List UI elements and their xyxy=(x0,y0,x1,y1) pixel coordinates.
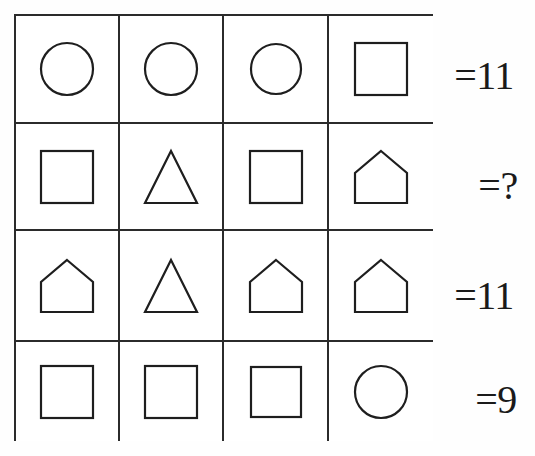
circle-icon xyxy=(249,42,303,96)
house-icon xyxy=(248,258,304,314)
grid-cell-r1c1[interactable] xyxy=(16,16,120,124)
row-total-2: =? xyxy=(433,166,535,206)
grid-cell-r3c2[interactable] xyxy=(120,231,224,342)
triangle-icon xyxy=(143,258,199,314)
row-total-4: =9 xyxy=(433,380,535,420)
square-icon xyxy=(249,365,303,419)
grid-cell-r2c4[interactable] xyxy=(329,124,433,231)
grid-cell-r4c1[interactable] xyxy=(16,342,120,441)
shape-equation-puzzle: =11 =? =11 =9 xyxy=(0,0,535,456)
house-icon xyxy=(353,149,409,205)
row-total-1: =11 xyxy=(433,56,535,96)
house-icon xyxy=(39,258,95,314)
circle-icon xyxy=(143,41,199,97)
square-icon xyxy=(353,41,409,97)
puzzle-grid xyxy=(14,14,433,441)
grid-cell-r1c3[interactable] xyxy=(224,16,329,124)
grid-cell-r2c1[interactable] xyxy=(16,124,120,231)
square-icon xyxy=(39,149,95,205)
grid-cell-r4c4[interactable] xyxy=(329,342,433,441)
row-totals: =11 =? =11 =9 xyxy=(433,14,535,441)
circle-icon xyxy=(353,364,409,420)
square-icon xyxy=(143,364,199,420)
grid-cell-r4c3[interactable] xyxy=(224,342,329,441)
circle-icon xyxy=(39,41,95,97)
grid-cell-r1c4[interactable] xyxy=(329,16,433,124)
square-icon xyxy=(39,364,95,420)
grid-cell-r3c3[interactable] xyxy=(224,231,329,342)
grid-cell-r2c3[interactable] xyxy=(224,124,329,231)
square-icon xyxy=(248,149,304,205)
row-total-3: =11 xyxy=(433,276,535,316)
house-icon xyxy=(353,258,409,314)
triangle-icon xyxy=(143,149,199,205)
grid-cell-r4c2[interactable] xyxy=(120,342,224,441)
grid-cell-r3c1[interactable] xyxy=(16,231,120,342)
grid-cell-r3c4[interactable] xyxy=(329,231,433,342)
grid-cell-r1c2[interactable] xyxy=(120,16,224,124)
grid-cell-r2c2[interactable] xyxy=(120,124,224,231)
